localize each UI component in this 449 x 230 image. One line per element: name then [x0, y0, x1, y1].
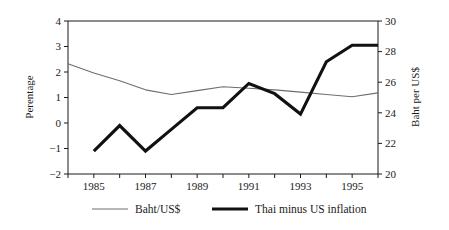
- plot-frame: [68, 21, 378, 174]
- left-tick-label: 3: [56, 40, 62, 52]
- series-line-thick: [94, 45, 378, 151]
- right-tick-label: 20: [385, 168, 397, 180]
- left-tick-label: 2: [56, 66, 62, 78]
- line-chart: −2−101234 202224262830 19851987198919911…: [0, 0, 449, 230]
- x-tick-label: 1995: [341, 180, 364, 192]
- left-axis-title: Perentage: [23, 75, 35, 118]
- legend-label-1: Baht/US$: [135, 203, 181, 215]
- right-tick-label: 22: [385, 137, 396, 149]
- legend-label-2: Thai minus US inflation: [255, 203, 367, 215]
- x-tick-label: 1993: [290, 180, 313, 192]
- x-tick-label: 1987: [135, 180, 158, 192]
- right-tick-label: 26: [385, 76, 397, 88]
- left-tick-label: 1: [56, 91, 62, 103]
- x-axis-tick-labels: 198519871989199119931995: [83, 180, 364, 192]
- left-tick-label: −2: [49, 168, 61, 180]
- left-axis-ticks: [64, 21, 68, 174]
- x-axis-ticks: [68, 174, 378, 178]
- left-tick-label: 0: [56, 117, 62, 129]
- right-axis-ticks: [378, 21, 382, 174]
- x-tick-label: 1989: [186, 180, 209, 192]
- right-tick-label: 30: [385, 15, 397, 27]
- left-tick-label: −1: [49, 142, 61, 154]
- right-axis-tick-labels: 202224262830: [385, 15, 397, 180]
- right-tick-label: 28: [385, 45, 397, 57]
- right-tick-label: 24: [385, 107, 397, 119]
- right-axis-title: Baht per US$: [409, 67, 421, 127]
- chart-figure: −2−101234 202224262830 19851987198919911…: [0, 0, 449, 230]
- left-axis-tick-labels: −2−101234: [49, 15, 61, 180]
- series-line-thin: [68, 64, 378, 97]
- series-lines: [68, 45, 378, 151]
- x-tick-label: 1991: [238, 180, 260, 192]
- x-tick-label: 1985: [83, 180, 106, 192]
- left-tick-label: 4: [56, 15, 62, 27]
- chart-legend: Baht/US$Thai minus US inflation: [92, 203, 367, 215]
